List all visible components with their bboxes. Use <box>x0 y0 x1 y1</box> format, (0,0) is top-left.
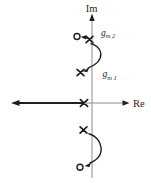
re-axis-arrowhead-icon <box>123 100 130 105</box>
label-gm2-subscript: m 2 <box>106 32 116 39</box>
re-axis-label: Re <box>133 98 145 109</box>
zero-lower-icon <box>77 164 83 170</box>
pole-zero-diagram: Im Re gm 2 gm 1 <box>0 0 151 183</box>
label-gm1-subscript: m 1 <box>107 74 117 81</box>
zero-upper-icon <box>74 34 80 40</box>
im-axis-label: Im <box>86 3 98 14</box>
pole-zero-plot: Im Re gm 2 gm 1 <box>0 0 151 183</box>
pole-gm1-icon <box>77 69 84 75</box>
lower-arc-arrowhead-icon <box>85 163 92 168</box>
label-gm1: gm 1 <box>103 69 117 81</box>
upper-locus-arc <box>88 44 101 69</box>
lower-locus-arc <box>89 134 102 164</box>
label-gm2: gm 2 <box>101 28 116 40</box>
pole-lower-icon <box>80 127 87 133</box>
im-axis-arrowhead-icon <box>89 14 94 22</box>
left-arrowhead-icon <box>11 100 20 106</box>
